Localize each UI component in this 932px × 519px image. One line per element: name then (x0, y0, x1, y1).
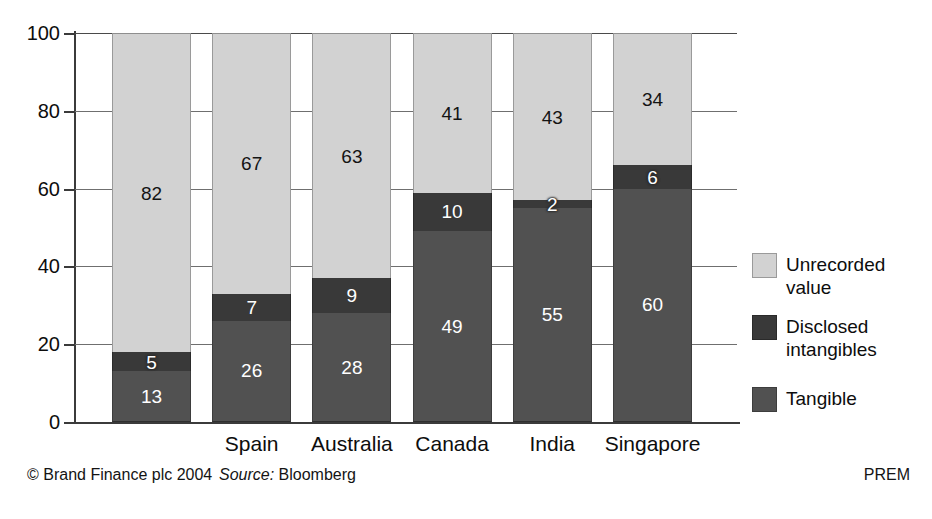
bar-segment-tangible[interactable]: 55 (513, 208, 592, 422)
segment-value-label: 7 (246, 298, 257, 317)
source-name: Bloomberg (279, 466, 356, 483)
legend-swatch-icon (752, 253, 777, 278)
y-tick-label-100: 100 (4, 23, 60, 43)
bar-singapore[interactable]: 34660 (613, 33, 692, 422)
bar-segment-disclosed[interactable]: 5 (112, 352, 191, 371)
copyright-text: © Brand Finance plc 2004 (27, 466, 212, 484)
bar-australia[interactable]: 63928 (312, 33, 391, 422)
segment-value-label: 60 (642, 295, 663, 314)
bar-segment-disclosed[interactable]: 9 (312, 278, 391, 313)
segment-value-label: 34 (642, 90, 663, 109)
bar-segment-tangible[interactable]: 49 (413, 231, 492, 422)
segment-value-label: 67 (241, 154, 262, 173)
chart-footer: © Brand Finance plc 2004 Source: Bloombe… (0, 466, 932, 496)
y-axis-labels: 020406080100 (0, 0, 60, 519)
legend-item-tangible[interactable]: Tangible (752, 387, 857, 412)
category-label-singapore: Singapore (583, 432, 723, 456)
y-tick-20 (64, 344, 75, 346)
segment-value-label: 6 (614, 167, 691, 186)
segment-value-label: 41 (442, 104, 463, 123)
legend-item-unrecorded[interactable]: Unrecorded value (752, 253, 918, 299)
segment-value-label: 43 (542, 108, 563, 127)
plot-area: 8251367726639284110494325534660 (75, 33, 737, 422)
segment-value-label: 9 (347, 286, 358, 305)
bar-segment-unrecorded[interactable]: 43 (513, 33, 592, 200)
legend-item-disclosed[interactable]: Disclosed intangibles (752, 315, 918, 361)
bar-unlabeled[interactable]: 82513 (112, 33, 191, 422)
legend-swatch-icon (752, 387, 777, 412)
bar-segment-tangible[interactable]: 26 (212, 321, 291, 422)
bar-segment-unrecorded[interactable]: 82 (112, 33, 191, 352)
bar-segment-unrecorded[interactable]: 67 (212, 33, 291, 294)
segment-value-label: 5 (113, 352, 190, 371)
y-tick-label-20: 20 (4, 334, 60, 354)
segment-value-label: 26 (241, 361, 262, 380)
bar-segment-disclosed[interactable]: 10 (413, 193, 492, 232)
segment-value-label: 55 (542, 305, 563, 324)
y-tick-label-0: 0 (4, 412, 60, 432)
y-tick-label-40: 40 (4, 256, 60, 276)
bar-segment-disclosed[interactable]: 6 (613, 165, 692, 188)
bar-segment-unrecorded[interactable]: 63 (312, 33, 391, 278)
segment-value-label: 10 (442, 202, 463, 221)
bar-segment-disclosed[interactable]: 2 (513, 200, 592, 208)
prem-mark: PREM (864, 466, 910, 484)
legend-swatch-icon (752, 315, 777, 340)
x-axis-line (68, 422, 740, 424)
legend-label: Tangible (786, 387, 857, 410)
source-keyword: Source: (219, 466, 274, 483)
bar-segment-unrecorded[interactable]: 34 (613, 33, 692, 165)
y-tick-80 (64, 111, 75, 113)
legend-label: Unrecorded value (786, 253, 918, 299)
legend-label: Disclosed intangibles (786, 315, 918, 361)
chart-page: 020406080100 825136772663928411049432553… (0, 0, 932, 519)
bar-india[interactable]: 43255 (513, 33, 592, 422)
y-tick-60 (64, 189, 75, 191)
bar-segment-unrecorded[interactable]: 41 (413, 33, 492, 192)
bar-segment-tangible[interactable]: 60 (613, 189, 692, 422)
source-note: Source: Bloomberg (219, 466, 356, 484)
segment-value-label: 49 (442, 317, 463, 336)
y-tick-0 (64, 422, 75, 424)
segment-value-label: 13 (141, 387, 162, 406)
bar-segment-disclosed[interactable]: 7 (212, 294, 291, 321)
segment-value-label: 28 (341, 358, 362, 377)
y-tick-100 (64, 33, 75, 35)
bar-spain[interactable]: 67726 (212, 33, 291, 422)
bar-canada[interactable]: 411049 (413, 33, 492, 422)
segment-value-label: 82 (141, 184, 162, 203)
bar-segment-tangible[interactable]: 28 (312, 313, 391, 422)
segment-value-label: 2 (514, 195, 591, 214)
y-tick-40 (64, 266, 75, 268)
y-tick-label-60: 60 (4, 179, 60, 199)
segment-value-label: 63 (341, 147, 362, 166)
bar-segment-tangible[interactable]: 13 (112, 371, 191, 422)
y-tick-label-80: 80 (4, 101, 60, 121)
